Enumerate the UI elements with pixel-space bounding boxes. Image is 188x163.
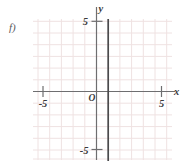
grid-vertical-lines [38,19,167,160]
y-axis-label: y [97,3,104,14]
graph-figure: f) [0,0,188,163]
grid-horizontal-lines [33,21,172,159]
x-tick-label-pos5: 5 [159,98,164,109]
coordinate-plane-plot: y x O -5 5 5 -5 [0,0,188,163]
x-tick-label-neg5: -5 [39,98,48,109]
y-tick-label-neg5: -5 [80,145,89,156]
y-tick-label-pos5: 5 [83,16,88,27]
x-axis-label: x [173,86,179,97]
origin-label: O [89,93,96,103]
